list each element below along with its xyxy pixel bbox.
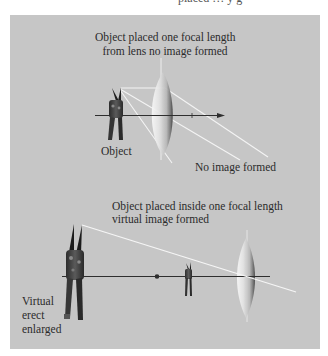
convex-lens xyxy=(152,72,173,156)
enlarged-label: enlarged xyxy=(22,323,61,337)
object-label: Object xyxy=(101,145,132,159)
bottom-diagram-title-line2: virtual image formed xyxy=(112,213,209,227)
axis-arrow-icon xyxy=(217,113,225,118)
bottom-diagram-title-line1: Object placed inside one focal length xyxy=(112,200,283,214)
ray-line xyxy=(82,225,296,292)
diverging-rays xyxy=(120,88,268,163)
bottom-diagram xyxy=(62,224,296,322)
focal-point-dot xyxy=(155,274,160,279)
erect-label: erect xyxy=(22,309,44,323)
top-diagram-title-line1: Object placed one focal length xyxy=(95,31,235,45)
top-diagram-title-line2: from lens no image formed xyxy=(95,45,235,59)
pliers-object-icon xyxy=(108,87,123,140)
enlarged-virtual-image-pliers-icon xyxy=(64,224,84,320)
virtual-label: Virtual xyxy=(22,295,54,309)
small-pliers-object-icon xyxy=(185,262,192,296)
no-image-formed-label: No image formed xyxy=(195,161,276,175)
